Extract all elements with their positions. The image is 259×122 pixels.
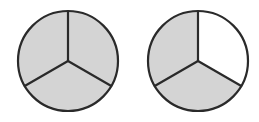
- right-circle: [148, 11, 248, 111]
- left-circle: [18, 11, 118, 111]
- fraction-circles-svg: [0, 0, 259, 122]
- fraction-circles-figure: [0, 0, 259, 122]
